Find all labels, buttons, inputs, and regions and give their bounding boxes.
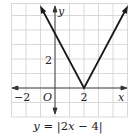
- x-axis-label: x: [118, 91, 125, 104]
- x-axis-left-arrow-icon: [12, 86, 18, 90]
- caption-post: − 4|: [75, 119, 103, 133]
- graph-left-arrow-icon: [40, 6, 46, 15]
- x-tick-label-neg2: −2: [14, 91, 30, 104]
- graph-right-arrow-icon: [122, 6, 128, 15]
- y-tick-label-2: 2: [45, 54, 52, 67]
- y-axis-label: y: [57, 5, 65, 18]
- x-axis-right-arrow-icon: [121, 86, 127, 90]
- x-tick-label-2: 2: [81, 91, 88, 104]
- caption-mid: = |2: [40, 119, 68, 133]
- origin-label: O: [43, 91, 52, 104]
- y-axis-up-arrow-icon: [53, 6, 57, 12]
- graph: y x O −2 2 2: [0, 0, 136, 120]
- y-axis-down-arrow-icon: [53, 108, 57, 114]
- equation-caption: y = |2x − 4|: [0, 119, 136, 133]
